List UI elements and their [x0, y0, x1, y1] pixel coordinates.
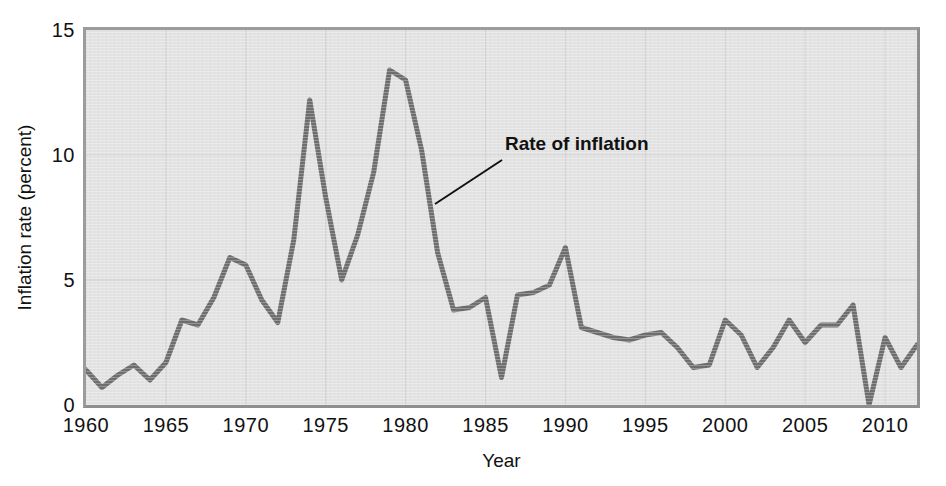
- annotation-label-rate-of-inflation: Rate of inflation: [505, 133, 649, 155]
- x-axis-tick-label: 1985: [462, 414, 509, 437]
- x-axis-tick-label: 1975: [302, 414, 349, 437]
- data-series-line: [86, 70, 917, 405]
- x-axis-tick-label: 2005: [782, 414, 829, 437]
- x-axis-tick-label: 2010: [862, 414, 909, 437]
- x-axis-title: Year: [83, 450, 920, 472]
- inflation-rate-chart-figure: 151050 Inflation rate (percent) 19601965…: [0, 0, 946, 486]
- x-axis-tick-label: 1980: [382, 414, 429, 437]
- plot-inner: [86, 30, 917, 405]
- x-axis-tick-label: 1970: [223, 414, 270, 437]
- x-axis-tick-label: 1960: [63, 414, 110, 437]
- chart-plot-svg: [86, 30, 917, 405]
- x-axis-tick-label: 1990: [542, 414, 589, 437]
- x-axis-tick-label: 2000: [702, 414, 749, 437]
- x-axis-tick-label: 1965: [143, 414, 190, 437]
- plot-area: [83, 27, 920, 408]
- y-axis-title: Inflation rate (percent): [14, 27, 42, 408]
- gridlines: [86, 30, 917, 405]
- data-series-layer: [86, 70, 917, 405]
- x-axis-tick-label: 1995: [622, 414, 669, 437]
